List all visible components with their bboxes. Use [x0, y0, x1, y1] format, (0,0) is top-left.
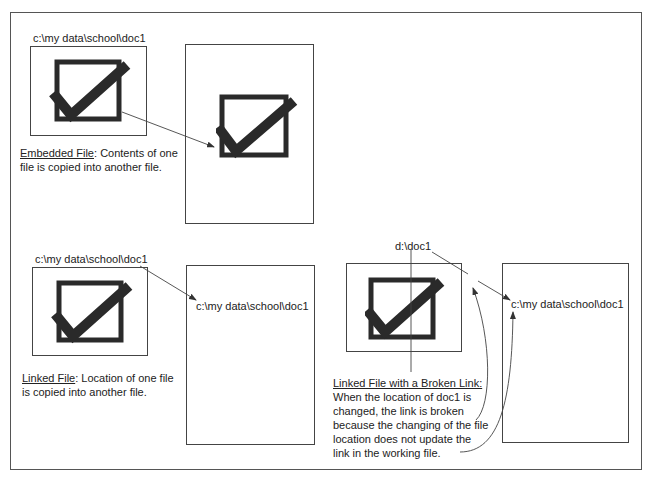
checkbox-checkmark-icon — [49, 57, 131, 123]
broken-target-path: c:\my data\school\doc1 — [511, 298, 624, 311]
linked-source-file — [32, 267, 148, 356]
embedded-caption-title: Embedded File — [20, 147, 94, 159]
broken-source-file — [346, 263, 462, 352]
checkbox-checkmark-icon — [51, 278, 133, 344]
embedded-source-path: c:\my data\school\doc1 — [33, 32, 146, 45]
broken-caption: Linked File with a Broken Link: When the… — [333, 376, 488, 460]
linked-caption-line1: Location of one file — [81, 372, 173, 384]
broken-target-document: c:\my data\school\doc1 — [502, 263, 629, 443]
linked-caption: Linked File: Location of one file is cop… — [22, 371, 174, 399]
linked-target-document: c:\my data\school\doc1 — [186, 265, 315, 445]
linked-target-path: c:\my data\school\doc1 — [196, 300, 309, 313]
embedded-source-file — [30, 46, 147, 136]
checkbox-checkmark-icon — [365, 276, 447, 342]
embedded-caption: Embedded File: Contents of one file is c… — [20, 146, 178, 174]
embedded-target-document — [185, 44, 314, 224]
linked-caption-line2: is copied into another file. — [22, 386, 147, 398]
broken-caption-title: Linked File with a Broken Link: — [333, 377, 482, 389]
embedded-caption-line1: Contents of one — [100, 147, 178, 159]
linked-caption-title: Linked File — [22, 372, 75, 384]
linked-source-path: c:\my data\school\doc1 — [35, 253, 148, 266]
broken-source-path: d:\doc1 — [395, 240, 431, 253]
checkbox-checkmark-icon — [216, 93, 298, 159]
embedded-caption-line2: file is copied into another file. — [20, 161, 162, 173]
